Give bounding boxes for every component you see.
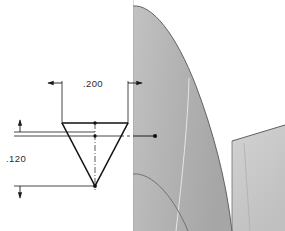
notch-left-flank bbox=[62, 123, 95, 186]
dimension-label-width: .200 bbox=[83, 78, 103, 89]
dimension-width-200: .200 bbox=[48, 78, 142, 124]
notch-right-flank bbox=[95, 123, 128, 186]
dimension-label-depth: .120 bbox=[6, 153, 26, 164]
platform-surface bbox=[232, 125, 285, 231]
vertex-dot-apex bbox=[93, 184, 97, 188]
shaded-3d-blade-model bbox=[133, 0, 285, 231]
vertex-dot-top bbox=[93, 121, 96, 124]
drawing-canvas: .200 .120 bbox=[0, 0, 285, 231]
leader-endpoint-dot bbox=[153, 134, 157, 138]
cad-drawing-svg: .200 .120 bbox=[0, 0, 285, 231]
